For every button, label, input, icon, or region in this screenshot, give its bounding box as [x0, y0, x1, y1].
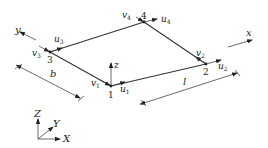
- node-3-v-arrow: [39, 46, 49, 52]
- global-Z-label: Z: [33, 108, 42, 119]
- x-axis-arrow: [228, 40, 252, 47]
- u2-label: u2: [218, 61, 228, 72]
- plate-element-diagram: 1 2 3 4 u1 v1 u2 v2 u3 v3 u4 v4 x y z b …: [0, 0, 268, 148]
- v2-label: v2: [196, 48, 205, 59]
- z-axis-label: z: [113, 60, 119, 70]
- dimension-b-tick-end: [78, 96, 84, 101]
- x-axis-label: x: [246, 27, 252, 38]
- u1-label: u1: [120, 84, 130, 95]
- dimension-b-label: b: [50, 68, 56, 79]
- global-Y-arrow: [38, 127, 53, 139]
- global-Y-label: Y: [53, 118, 61, 129]
- node-2-label: 2: [203, 67, 209, 77]
- dimension-l-label: l: [183, 76, 186, 87]
- dimension-b-tick-start: [15, 64, 22, 69]
- u4-label: u4: [161, 14, 171, 25]
- edge-4-3: [50, 22, 144, 52]
- node-3-label: 3: [47, 55, 53, 65]
- global-X-label: X: [62, 133, 71, 144]
- u3-label: u3: [54, 34, 64, 45]
- v3-label: v3: [32, 48, 41, 59]
- y-axis-label: y: [14, 24, 21, 35]
- node-4-label: 4: [141, 11, 147, 21]
- v4-label: v4: [122, 10, 131, 21]
- node-1-label: 1: [108, 90, 114, 100]
- y-axis-arrow: [20, 32, 36, 40]
- dimension-l-arrow: [144, 73, 237, 103]
- node-1-v-arrow: [100, 80, 110, 86]
- edge-1-2: [111, 64, 206, 86]
- node-3-u-arrow: [50, 48, 62, 52]
